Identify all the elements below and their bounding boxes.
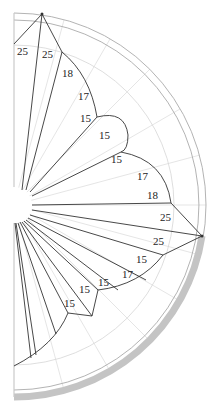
sector-label: 25: [42, 48, 54, 60]
polar-diagram: 25 25 18 17 15 15 15 17 18 25 25 15 17 1…: [0, 0, 214, 408]
sector-labels: 25 25 18 17 15 15 15 17 18 25 25 15 17 1…: [17, 45, 172, 309]
sector-label: 25: [160, 211, 172, 223]
sector-label: 25: [17, 45, 29, 57]
sector-label: 15: [136, 253, 148, 265]
sector-label: 25: [153, 235, 165, 247]
sector-label: 15: [98, 276, 110, 288]
sector-label: 18: [147, 189, 159, 201]
apex-point-right: [201, 235, 204, 238]
sector-label: 17: [122, 268, 134, 280]
sector-label: 17: [137, 170, 149, 182]
diagram-canvas: 25 25 18 17 15 15 15 17 18 25 25 15 17 1…: [0, 0, 214, 408]
apex-point-top: [41, 13, 44, 16]
sector-label: 18: [62, 67, 74, 79]
sector-label: 15: [111, 153, 123, 165]
sector-label: 15: [99, 129, 111, 141]
sector-label: 17: [78, 90, 90, 102]
sector-label: 15: [80, 112, 92, 124]
sector-label: 15: [79, 283, 91, 295]
sector-label: 15: [64, 297, 76, 309]
center-hub: [0, 187, 32, 223]
